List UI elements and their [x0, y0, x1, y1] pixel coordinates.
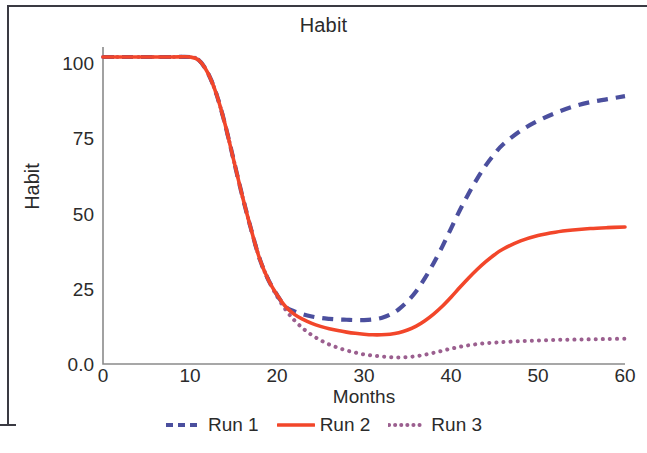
series-line-run-3	[103, 57, 625, 358]
legend-item-run-2[interactable]: Run 2	[277, 415, 371, 434]
legend-item-run-3[interactable]: Run 3	[388, 415, 482, 434]
legend-swatch-dotted	[388, 418, 426, 432]
figure-page: Habit Habit Months 0.0255075100 01020304…	[0, 0, 647, 453]
legend-label: Run 3	[431, 415, 482, 434]
line-chart: Habit Habit Months 0.0255075100 01020304…	[0, 0, 647, 453]
plot-canvas	[0, 0, 647, 453]
legend-swatch-dashed	[165, 418, 203, 432]
chart-legend: Run 1Run 2Run 3	[0, 415, 647, 434]
series-line-run-1	[103, 57, 625, 320]
legend-item-run-1[interactable]: Run 1	[165, 415, 259, 434]
legend-swatch-solid	[277, 418, 315, 432]
legend-label: Run 2	[320, 415, 371, 434]
legend-label: Run 1	[208, 415, 259, 434]
axis-spines	[103, 47, 625, 364]
series-line-run-2	[103, 57, 625, 335]
